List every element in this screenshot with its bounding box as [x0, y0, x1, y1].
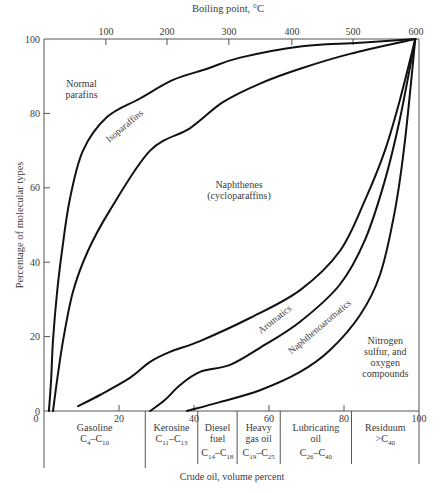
x-tick-label: 0 — [34, 413, 39, 424]
fraction-heavy-gas-oil-formula: C19–C25 — [243, 447, 276, 461]
fraction-kerosine: KerosineC11–C13 — [153, 422, 190, 447]
fraction-kerosine-name: Kerosine — [153, 422, 190, 433]
top-tick-label: 300 — [221, 26, 236, 37]
molecular-types-chart: 0204060801000204060801001002003004005006… — [0, 0, 445, 493]
fraction-residuum-formula: >C40 — [376, 433, 396, 447]
fraction-labels: GasolineC4–C10KerosineC11–C13DieselfuelC… — [44, 411, 419, 468]
x-tick-label: 20 — [114, 413, 124, 424]
y-tick-label: 40 — [30, 257, 40, 268]
top-axis-title: Boiling point, °C — [192, 3, 264, 14]
top-tick-label: 200 — [160, 26, 175, 37]
fraction-diesel-fuel-formula: C14–C18 — [201, 447, 234, 461]
y-tick-label: 100 — [25, 34, 40, 45]
y-tick-label: 20 — [30, 331, 40, 342]
top-tick-label: 400 — [284, 26, 299, 37]
top-tick-label: 500 — [346, 26, 361, 37]
label-normal-parafins: Normalparafins — [65, 78, 97, 100]
label-naphthenes-cycloparaffins: Naphthenes(cycloparaffins) — [207, 179, 271, 202]
top-tick-label: 100 — [98, 26, 113, 37]
y-tick-label: 80 — [30, 108, 40, 119]
fraction-diesel-fuel-name: Dieselfuel — [205, 422, 231, 444]
fraction-gasoline-name: Gasoline — [77, 422, 113, 433]
fraction-gasoline: GasolineC4–C10 — [77, 422, 113, 447]
y-axis-title: Percentage of molecular types — [14, 162, 25, 289]
fraction-diesel-fuel: DieselfuelC14–C18 — [201, 422, 234, 461]
boundary-curves — [49, 39, 415, 411]
x-tick-label: 80 — [339, 413, 349, 424]
fraction-kerosine-formula: C11–C13 — [155, 433, 188, 447]
boundary-curve-2 — [53, 39, 415, 411]
y-tick-label: 60 — [30, 182, 40, 193]
fraction-lubricating-oil: LubricatingoilC26–C40 — [293, 422, 340, 461]
boundary-curve-1 — [49, 39, 415, 411]
fraction-lubricating-oil-name: Lubricatingoil — [293, 422, 340, 444]
fraction-heavy-gas-oil: Heavygas oilC19–C25 — [243, 422, 276, 461]
fraction-heavy-gas-oil-name: Heavygas oil — [245, 422, 272, 444]
fraction-residuum: Residuum>C40 — [365, 422, 406, 447]
top-tick-label: 600 — [409, 26, 424, 37]
fraction-residuum-name: Residuum — [365, 422, 406, 433]
region-labels: NormalparafinsIsoparaffinsNaphthenes(cyc… — [65, 78, 408, 379]
x-axis-title: Crude oil, volume percent — [180, 471, 285, 482]
fraction-gasoline-formula: C4–C10 — [80, 433, 109, 447]
label-isoparaffins: Isoparaffins — [104, 107, 145, 144]
fraction-lubricating-oil-formula: C26–C40 — [300, 447, 333, 461]
label-nitrogen-sulfur-and-oxygen-compounds: Nitrogensulfur, andoxygencompounds — [362, 335, 408, 379]
